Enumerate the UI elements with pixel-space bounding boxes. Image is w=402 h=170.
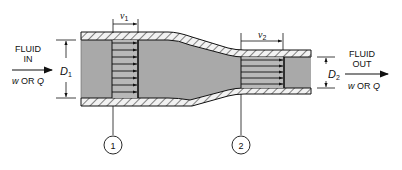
velocity-1-dimension: v1 <box>113 10 138 33</box>
svg-text:1: 1 <box>110 141 115 151</box>
svg-text:2: 2 <box>238 141 243 151</box>
diameter-2-label: D2 <box>328 68 340 81</box>
outlet-label: FLUID OUT w OR Q <box>345 49 388 91</box>
svg-text:w OR Q: w OR Q <box>348 81 380 91</box>
diameter-1-dimension: D1 <box>56 40 76 98</box>
svg-text:IN: IN <box>24 54 33 64</box>
svg-text:FLUID: FLUID <box>15 44 42 54</box>
velocity-1-label: v1 <box>120 10 128 22</box>
inlet-label: FLUID IN w OR Q <box>12 44 52 86</box>
svg-text:OUT: OUT <box>353 59 373 69</box>
velocity-2-dimension: v2 <box>241 29 283 50</box>
svg-text:w OR Q: w OR Q <box>12 76 44 86</box>
diameter-2-dimension: D2 <box>317 57 340 88</box>
diameter-1-label: D1 <box>60 65 72 78</box>
section-2-marker: 2 <box>232 94 250 154</box>
velocity-2-label: v2 <box>258 29 266 41</box>
svg-text:FLUID: FLUID <box>349 49 376 59</box>
velocity-profile-2 <box>241 57 284 88</box>
velocity-profile-1 <box>112 40 138 98</box>
pipe-flow-diagram: v1 v2 D1 D2 FLUID IN w OR Q FLUID OUT w … <box>0 0 402 170</box>
section-1-marker: 1 <box>104 106 122 154</box>
